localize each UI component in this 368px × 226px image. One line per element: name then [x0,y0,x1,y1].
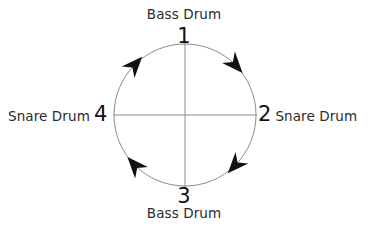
beat-number-right: 2 [258,104,271,125]
beat-label-left: Snare Drum [8,110,90,124]
beat-group-right: 2 Snare Drum [258,104,357,125]
arrow-bottom-left-icon [121,151,148,178]
arrow-top-right-icon [222,52,249,79]
beat-label-top: Bass Drum [0,8,368,22]
arrow-top-left-icon [122,51,149,78]
beat-label-bottom: Bass Drum [0,207,368,221]
arrow-bottom-right-icon [221,152,248,179]
drum-cycle-diagram: Bass Drum 1 3 Bass Drum Snare Drum 4 2 S… [0,0,368,226]
beat-label-right: Snare Drum [275,110,357,124]
beat-number-top: 1 [0,26,368,47]
beat-number-bottom: 3 [0,186,368,207]
beat-number-left: 4 [94,104,107,125]
beat-group-left: Snare Drum 4 [8,104,107,125]
